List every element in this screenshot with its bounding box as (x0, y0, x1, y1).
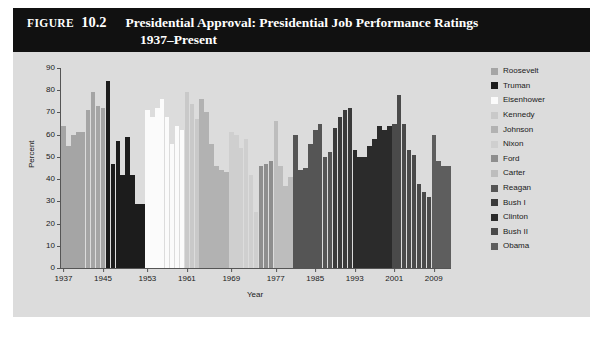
legend-swatch-icon (491, 112, 498, 119)
x-axis-tick: 1977 (267, 268, 285, 283)
bar-roosevelt-1938 (66, 146, 71, 268)
legend-swatch-icon (491, 141, 498, 148)
bar-carter-1980 (288, 177, 293, 268)
legend-item-kennedy[interactable]: Kennedy (491, 108, 587, 123)
legend-item-label: Kennedy (503, 111, 535, 119)
bar-obama-2010 (436, 161, 441, 268)
bar-nixon-1969 (229, 132, 234, 268)
bar-bush-ii-2005 (412, 155, 417, 268)
legend-item-label: Eisenhower (503, 96, 545, 104)
bar-nixon-1970 (234, 135, 239, 268)
y-axis-tick: 30 (46, 197, 61, 205)
legend-item-reagan[interactable]: Reagan (491, 181, 587, 196)
y-axis-tick: 90 (46, 64, 61, 72)
bar-nixon-1973 (249, 175, 254, 268)
bar-bush-i-1990 (338, 117, 343, 268)
bar-reagan-1984 (308, 144, 313, 268)
y-axis-tick: 50 (46, 153, 61, 161)
legend-item-label: Nixon (503, 140, 523, 148)
bar-clinton-1998 (377, 126, 382, 268)
bar-bush-i-1989 (333, 128, 338, 268)
x-axis-tick: 2001 (385, 268, 403, 283)
plot-wrapper: Percent 01020304050607080901937194519531… (13, 52, 590, 317)
legend-item-obama[interactable]: Obama (491, 239, 587, 254)
bar-reagan-1983 (303, 168, 308, 268)
bar-johnson-1967 (219, 170, 224, 268)
bar-reagan-1986 (318, 124, 323, 268)
bar-reagan-1988 (328, 152, 333, 268)
legend-item-clinton[interactable]: Clinton (491, 210, 587, 225)
legend-item-carter[interactable]: Carter (491, 166, 587, 181)
bar-eisenhower-1955 (155, 108, 160, 268)
bar-carter-1978 (278, 166, 283, 268)
bar-truman-1946 (111, 164, 116, 268)
bar-clinton-1996 (367, 146, 372, 268)
bar-clinton-2000 (387, 126, 392, 268)
bar-series-container (61, 68, 451, 268)
legend-item-truman[interactable]: Truman (491, 79, 587, 94)
legend-item-nixon[interactable]: Nixon (491, 137, 587, 152)
legend-swatch-icon (491, 214, 498, 221)
legend-item-label: Roosevelt (503, 67, 539, 75)
x-axis-tick: 2009 (425, 268, 443, 283)
bar-truman-1952 (140, 204, 145, 268)
bar-nixon-1974 (254, 212, 259, 268)
figure-title-bar: FIGURE 10.2 Presidential Approval: Presi… (13, 8, 590, 52)
bar-clinton-1999 (382, 130, 387, 268)
plot-area: 0102030405060708090193719451953196119691… (60, 68, 451, 269)
bar-eisenhower-1953 (145, 110, 150, 268)
legend-item-bush-ii[interactable]: Bush II (491, 225, 587, 240)
title-first-row: FIGURE 10.2 Presidential Approval: Presi… (27, 14, 590, 31)
bar-reagan-1987 (323, 157, 328, 268)
bar-roosevelt-1942 (86, 110, 91, 268)
legend-item-roosevelt[interactable]: Roosevelt (491, 64, 587, 79)
legend-swatch-icon (491, 170, 498, 177)
bar-roosevelt-1940 (76, 132, 81, 268)
legend-item-johnson[interactable]: Johnson (491, 122, 587, 137)
bar-eisenhower-1954 (150, 117, 155, 268)
bar-roosevelt-1945 (101, 108, 106, 268)
legend-item-label: Truman (503, 82, 530, 90)
bar-clinton-1995 (362, 157, 367, 268)
y-axis-tick: 70 (46, 108, 61, 116)
bar-obama-2009 (432, 135, 437, 268)
legend-item-eisenhower[interactable]: Eisenhower (491, 93, 587, 108)
bar-roosevelt-1944 (96, 106, 101, 268)
legend-swatch-icon (491, 97, 498, 104)
bar-carter-1977 (274, 121, 279, 268)
bar-clinton-1993 (353, 150, 358, 268)
y-axis-label: Percent (27, 140, 36, 168)
bar-bush-ii-2004 (407, 150, 412, 268)
legend-item-label: Clinton (503, 213, 528, 221)
bar-eisenhower-1957 (165, 117, 170, 268)
x-axis-tick: 1945 (94, 268, 112, 283)
y-axis-tick: 40 (46, 175, 61, 183)
legend-item-label: Carter (503, 169, 525, 177)
bar-eisenhower-1959 (175, 126, 180, 268)
legend-swatch-icon (491, 185, 498, 192)
bar-clinton-1997 (372, 139, 377, 268)
legend-item-label: Johnson (503, 126, 533, 134)
bar-kennedy-1963 (195, 119, 200, 268)
bar-johnson-1964 (204, 112, 209, 268)
bar-truman-1945 (106, 81, 111, 268)
legend-item-label: Obama (503, 242, 529, 250)
bar-roosevelt-1941 (81, 132, 86, 268)
legend-item-ford[interactable]: Ford (491, 152, 587, 167)
legend-item-label: Ford (503, 155, 519, 163)
bar-roosevelt-1943 (91, 92, 96, 268)
legend-swatch-icon (491, 228, 498, 235)
y-axis-tick: 60 (46, 131, 61, 139)
figure-root: FIGURE 10.2 Presidential Approval: Presi… (0, 0, 603, 342)
bar-obama-2011 (441, 166, 446, 268)
bar-nixon-1971 (239, 148, 244, 268)
legend-swatch-icon (491, 199, 498, 206)
bar-reagan-1985 (313, 130, 318, 268)
bar-nixon-1972 (244, 139, 249, 268)
legend-swatch-icon (491, 243, 498, 250)
bar-bush-ii-2003 (402, 124, 407, 268)
bar-truman-1950 (130, 175, 135, 268)
x-axis-label: Year (60, 290, 450, 299)
bar-clinton-1994 (357, 157, 362, 268)
legend-item-bush-i[interactable]: Bush I (491, 195, 587, 210)
